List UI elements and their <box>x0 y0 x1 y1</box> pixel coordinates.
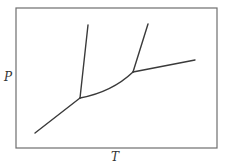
vaporization-curve <box>133 60 195 72</box>
phase-diagram <box>0 0 227 168</box>
x-axis-label: T <box>111 150 119 164</box>
plot-frame <box>16 8 217 148</box>
phase-boundary-curve <box>80 72 133 98</box>
sublimation-curve <box>35 98 80 133</box>
fusion-curve-1 <box>80 25 88 98</box>
fusion-curve-2 <box>133 24 148 72</box>
y-axis-label: P <box>4 70 12 84</box>
